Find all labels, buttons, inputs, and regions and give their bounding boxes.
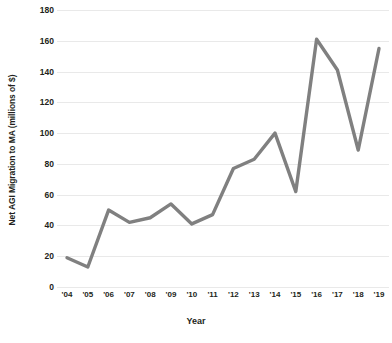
data-series-line <box>57 10 389 287</box>
y-axis-tick-label: 140 <box>30 67 54 77</box>
y-axis-tick-labels: 020406080100120140160180 <box>28 10 54 287</box>
y-axis-tick-label: 100 <box>30 128 54 138</box>
y-axis-tick-label: 80 <box>30 159 54 169</box>
x-axis-tick-labels: '04'05'06'07'08'09'10'11'12'13'14'15'16'… <box>57 290 389 306</box>
x-axis-tick-label: '05 <box>82 290 93 299</box>
x-axis-tick-label: '19 <box>374 290 385 299</box>
gridline <box>57 287 389 288</box>
x-axis-tick-label: '06 <box>103 290 114 299</box>
x-axis-title: Year <box>0 316 392 326</box>
x-axis-tick-label: '10 <box>186 290 197 299</box>
x-axis-tick-label: '08 <box>145 290 156 299</box>
x-axis-tick-label: '13 <box>249 290 260 299</box>
x-axis-tick-label: '04 <box>62 290 73 299</box>
x-axis-tick-label: '12 <box>228 290 239 299</box>
plot-area <box>57 10 389 287</box>
y-axis-tick-label: 60 <box>30 190 54 200</box>
x-axis-tick-label: '18 <box>353 290 364 299</box>
x-axis-tick-label: '14 <box>270 290 281 299</box>
x-axis-tick-label: '16 <box>311 290 322 299</box>
y-axis-tick-label: 180 <box>30 5 54 15</box>
y-axis-tick-label: 120 <box>30 97 54 107</box>
line-chart: Net AGI Migration to MA (millions of $) … <box>0 0 392 343</box>
x-axis-tick-label: '15 <box>290 290 301 299</box>
y-axis-title-text: Net AGI Migration to MA (millions of $) <box>7 75 17 226</box>
x-axis-tick-label: '17 <box>332 290 343 299</box>
y-axis-title: Net AGI Migration to MA (millions of $) <box>0 0 24 300</box>
x-axis-tick-label: '11 <box>207 290 217 299</box>
y-axis-tick-label: 20 <box>30 251 54 261</box>
y-axis-tick-label: 0 <box>30 282 54 292</box>
series-polyline <box>67 39 379 267</box>
x-axis-tick-label: '07 <box>124 290 135 299</box>
y-axis-tick-label: 160 <box>30 36 54 46</box>
x-axis-tick-label: '09 <box>166 290 177 299</box>
y-axis-tick-label: 40 <box>30 220 54 230</box>
